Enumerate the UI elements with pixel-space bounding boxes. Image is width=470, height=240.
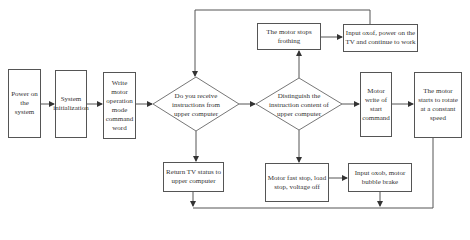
node-label: Write motor operation mode command word [105,79,134,133]
input-oxob-node: Input oxob, motor bubble brake [348,163,412,192]
power-on-node: Power on the system [8,69,41,138]
node-label: The motor stops frothing [259,28,319,46]
node-label: Return TV status to upper computer [165,168,222,186]
node-label: System initialization [53,95,88,113]
input-oxof-node: Input oxof, power on the TV and continue… [343,24,418,52]
node-label: The motor starts to rotate at a constant… [416,87,460,123]
receive-decision-node: Do you receive instructions from upper c… [166,92,226,118]
distinguish-decision-node: Distinguish the instruction content of u… [267,92,331,118]
fast-stop-node: Motor fast stop, load stop, voltage off [265,163,329,202]
node-label: Power on the system [10,90,39,117]
node-label: Do you receive instructions from upper c… [166,92,226,119]
node-label: Distinguish the instruction content of u… [267,92,331,119]
motor-write-start-node: Motor write of start command [360,72,392,137]
stops-frothing-node: The motor stops frothing [257,23,321,50]
node-label: Motor write of start command [362,87,390,123]
node-label: Input oxob, motor bubble brake [350,169,410,187]
return-status-node: Return TV status to upper computer [163,162,224,192]
node-label: Input oxof, power on the TV and continue… [345,29,416,47]
constant-speed-node: The motor starts to rotate at a constant… [414,72,462,138]
system-init-node: System initialization [55,70,87,138]
node-label: Motor fast stop, load stop, voltage off [267,174,327,192]
write-mode-node: Write motor operation mode command word [103,72,136,139]
